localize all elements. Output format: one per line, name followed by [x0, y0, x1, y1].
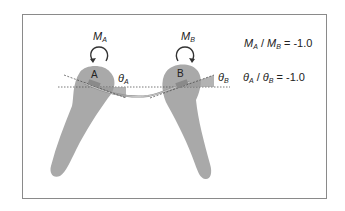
ratio-equals: =: [273, 71, 286, 83]
ratio-value: -1.0: [286, 71, 305, 83]
ratio-equals: =: [281, 37, 294, 49]
moment-ratio: MA / MB = -1.0: [244, 37, 312, 50]
ratio-separator: /: [258, 37, 267, 49]
moment-label-a: MA: [93, 30, 107, 43]
angle-ratio: θA / θB = -1.0: [243, 71, 305, 84]
tooth-label-b: B: [177, 68, 184, 79]
angle-label-a: θA: [118, 72, 129, 85]
ratio-separator: /: [254, 71, 263, 83]
angle-subscript: A: [124, 78, 129, 85]
tooth-a-shape: [50, 66, 114, 177]
moment-subscript: A: [102, 36, 107, 43]
moment-subscript: B: [190, 36, 195, 43]
moment-symbol: M: [93, 30, 102, 42]
diagram-canvas: [0, 0, 345, 211]
moment-symbol: M: [181, 30, 190, 42]
angle-label-b: θB: [218, 71, 229, 84]
moment-arrowhead-b: [189, 58, 195, 63]
angle-subscript: B: [224, 77, 229, 84]
moment-label-b: MB: [181, 30, 195, 43]
ratio-num-symbol: M: [244, 37, 253, 49]
tooth-label-a: A: [91, 69, 98, 80]
ratio-den-symbol: M: [267, 37, 276, 49]
ratio-value: -1.0: [293, 37, 312, 49]
